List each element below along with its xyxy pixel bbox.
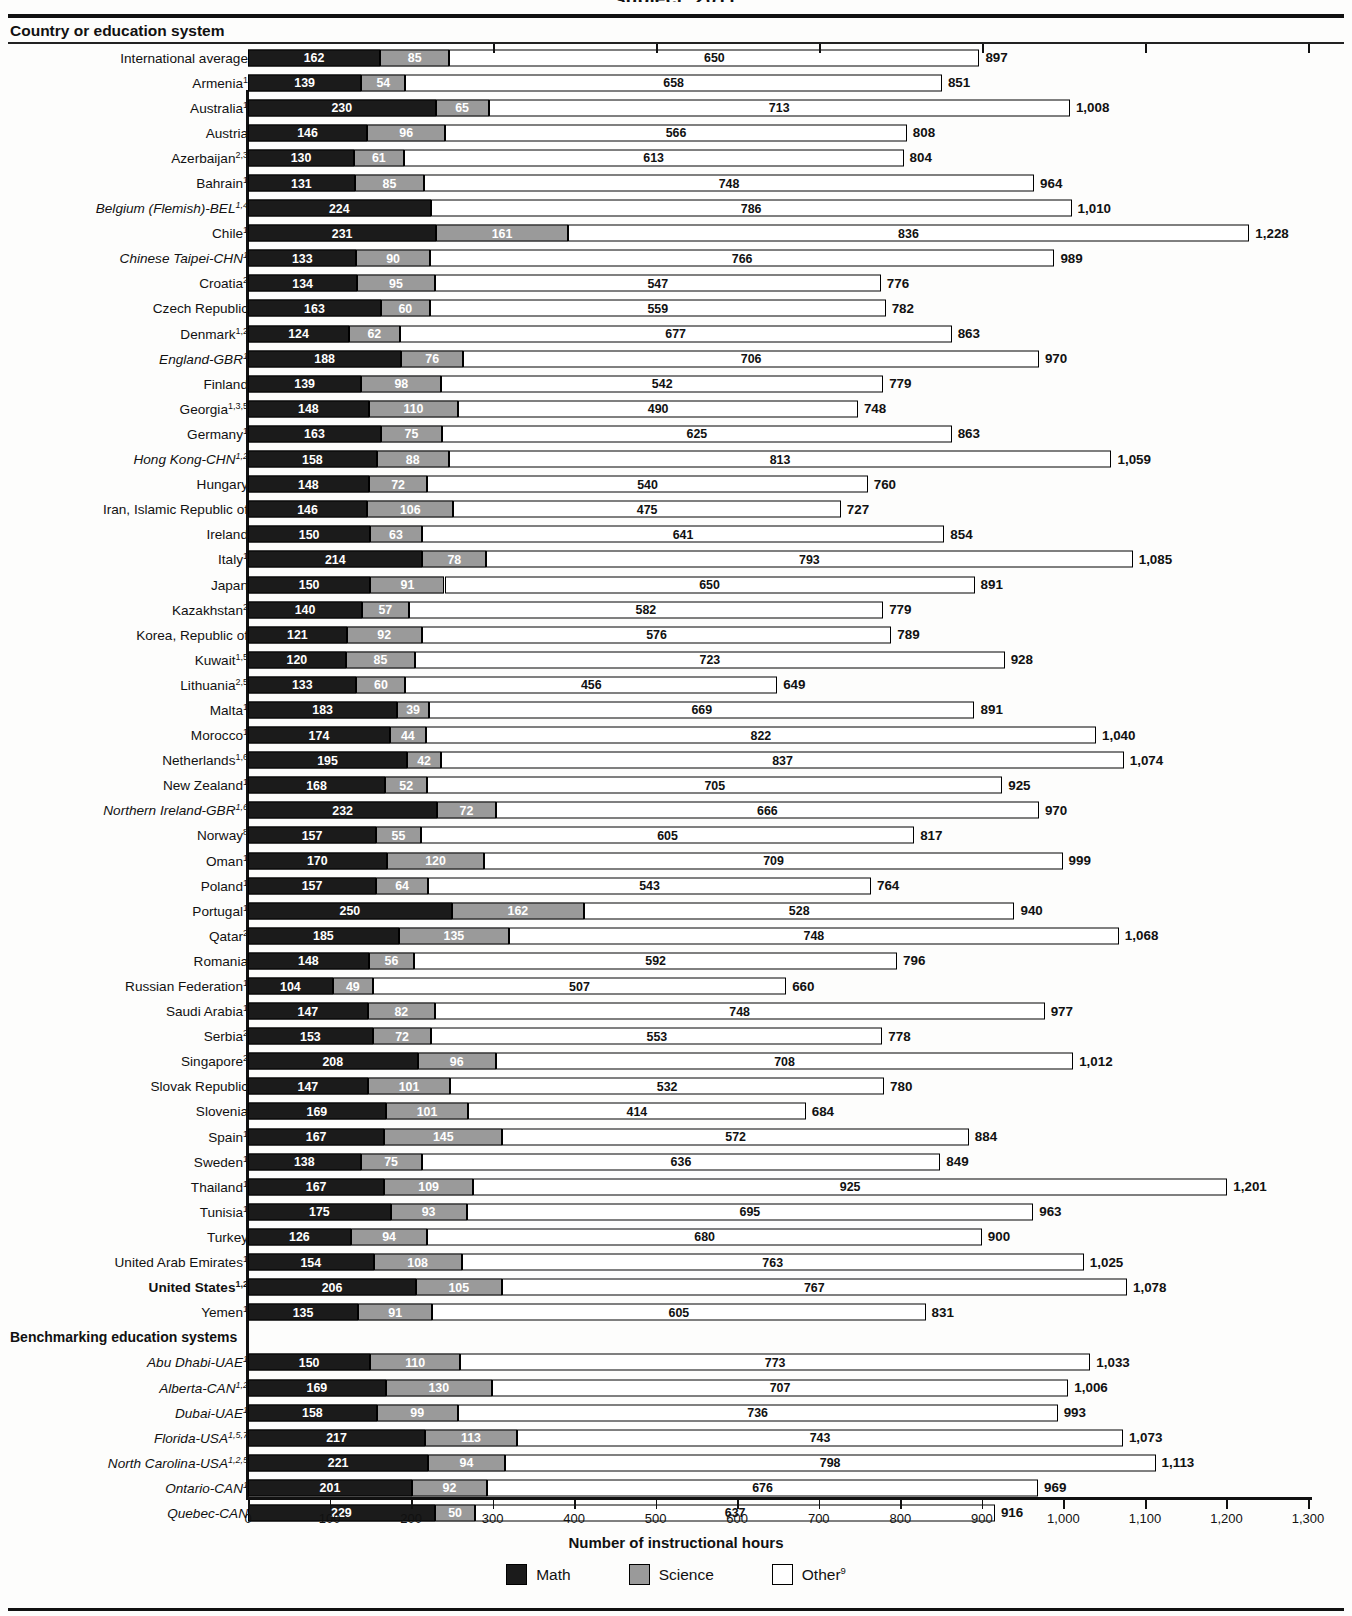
bar-segment-science: 91 — [370, 576, 444, 593]
chart-row: Singapore2208967081,012 — [0, 1049, 1352, 1074]
x-tick-1000 — [1063, 1500, 1065, 1509]
stacked-bar: 17593695963 — [248, 1203, 1308, 1220]
bar-segment-math: 120 — [248, 651, 346, 668]
bar-segment-math: 169 — [248, 1379, 386, 1396]
bar-segment-science: 85 — [346, 651, 415, 668]
bar-segment-math: 135 — [248, 1304, 358, 1321]
bar-segment-other: 507 — [373, 978, 786, 995]
bar-segment-math: 175 — [248, 1203, 391, 1220]
bar-total-label: 928 — [1011, 652, 1033, 667]
bar-segment-math: 133 — [248, 250, 356, 267]
bar-segment-math: 174 — [248, 727, 390, 744]
row-label-alberta-can: Alberta-CAN1,2 — [159, 1379, 248, 1396]
footnote-marker: 1,5 — [235, 652, 248, 662]
row-label-kuwait: Kuwait1,5 — [195, 652, 248, 669]
chart-row: Turkey12694680900 — [0, 1224, 1352, 1249]
row-label-yemen: Yemen1 — [201, 1304, 248, 1321]
footnote-marker: 2,3 — [235, 150, 248, 160]
x-tick-label-1000: 1,000 — [1047, 1511, 1080, 1526]
bar-segment-other: 613 — [404, 149, 904, 166]
bar-segment-math: 208 — [248, 1053, 418, 1070]
row-label-iran-islamic-republic-of: Iran, Islamic Republic of — [103, 502, 248, 517]
bar-total-label: 684 — [812, 1104, 834, 1119]
bar-segment-math: 169 — [248, 1103, 386, 1120]
row-label-qatar: Qatar2 — [209, 928, 248, 945]
legend-footnote-marker: 9 — [841, 1565, 846, 1576]
chart-row: Japan15091650891 — [0, 572, 1352, 597]
row-label-georgia: Georgia1,3,5 — [180, 401, 248, 418]
row-label-finland: Finland — [203, 376, 248, 391]
bar-total-label: 1,228 — [1255, 226, 1289, 241]
chart-row: Morocco1174448221,040 — [0, 723, 1352, 748]
bar-total-label: 897 — [985, 50, 1007, 65]
footnote-marker: 1,5,7 — [228, 1429, 248, 1439]
bar-segment-other: 559 — [430, 300, 886, 317]
x-tick-700 — [819, 1500, 821, 1509]
chart-row: Iran, Islamic Republic of146106475727 — [0, 497, 1352, 522]
x-tick-label-800: 800 — [889, 1511, 911, 1526]
row-label-denmark: Denmark1,2 — [180, 325, 248, 342]
row-label-poland: Poland1 — [201, 877, 248, 894]
bar-segment-math: 153 — [248, 1028, 373, 1045]
bar-total-label: 851 — [948, 75, 970, 90]
x-top-tick-500 — [656, 44, 658, 53]
bar-segment-other: 773 — [460, 1354, 1090, 1371]
bar-segment-science: 60 — [356, 676, 405, 693]
bar-segment-science: 52 — [385, 777, 427, 794]
stacked-bar: 2247861,010 — [248, 200, 1308, 217]
bar-segment-math: 126 — [248, 1228, 351, 1245]
bar-segment-math: 221 — [248, 1454, 428, 1471]
bar-total-label: 779 — [889, 602, 911, 617]
x-tick-600 — [737, 1500, 739, 1509]
bar-segment-math: 170 — [248, 852, 387, 869]
bar-segment-other: 456 — [405, 676, 777, 693]
bar-segment-science: 54 — [361, 74, 405, 91]
bar-segment-math: 231 — [248, 225, 436, 242]
chart-row: Abu Dhabi-UAE11501107731,033 — [0, 1350, 1352, 1375]
stacked-bar: 13591605831 — [248, 1304, 1308, 1321]
bar-segment-science: 98 — [361, 375, 441, 392]
row-label-croatia: Croatia2 — [199, 275, 248, 292]
bar-segment-math: 139 — [248, 375, 361, 392]
stacked-bar: 12694680900 — [248, 1228, 1308, 1245]
stacked-bar: 148110490748 — [248, 400, 1308, 417]
bar-segment-math: 150 — [248, 526, 370, 543]
stacked-bar: 12085723928 — [248, 651, 1308, 668]
bar-segment-science: 101 — [368, 1078, 450, 1095]
bar-segment-science: 72 — [437, 802, 496, 819]
chart-row: Qatar21851357481,068 — [0, 923, 1352, 948]
bar-segment-math: 158 — [248, 1404, 377, 1421]
row-label-portugal: Portugal1 — [192, 902, 248, 919]
bar-segment-math: 167 — [248, 1178, 384, 1195]
bar-total-label: 831 — [932, 1305, 954, 1320]
bar-segment-science: 65 — [436, 99, 489, 116]
bar-segment-other: 605 — [432, 1304, 925, 1321]
bar-segment-science: 94 — [428, 1454, 505, 1471]
bar-segment-math: 163 — [248, 425, 381, 442]
bar-segment-other: 676 — [487, 1479, 1038, 1496]
bar-segment-other: 748 — [424, 175, 1034, 192]
stacked-bar: 15372553778 — [248, 1028, 1308, 1045]
x-tick-800 — [900, 1500, 902, 1509]
chart-row: Oman1170120709999 — [0, 848, 1352, 873]
stacked-bar: 15755605817 — [248, 827, 1308, 844]
bar-total-label: 1,059 — [1117, 452, 1151, 467]
chart-row: Kuwait1,512085723928 — [0, 647, 1352, 672]
footnote-marker: 2,5 — [235, 677, 248, 687]
stacked-bar: 13185748964 — [248, 175, 1308, 192]
bar-total-label: 780 — [890, 1079, 912, 1094]
bar-segment-other: 723 — [415, 651, 1005, 668]
clipped-figure-title: subject: 2011 — [0, 0, 1352, 2]
bar-total-label: 1,113 — [1162, 1455, 1195, 1470]
bar-segment-math: 147 — [248, 1078, 368, 1095]
bar-segment-other: 414 — [468, 1103, 806, 1120]
x-top-tick-1100 — [1145, 44, 1147, 53]
stacked-bar: 1541087631,025 — [248, 1254, 1308, 1271]
stacked-bar: 13875636849 — [248, 1153, 1308, 1170]
stacked-bar: 15091650891 — [248, 576, 1308, 593]
row-label-korea-republic-of: Korea, Republic of — [136, 627, 248, 642]
bar-segment-science: 75 — [381, 425, 442, 442]
bar-segment-science: 72 — [373, 1028, 432, 1045]
chart-row: North Carolina-USA1,2,5221947981,113 — [0, 1450, 1352, 1475]
bar-segment-math: 230 — [248, 99, 436, 116]
